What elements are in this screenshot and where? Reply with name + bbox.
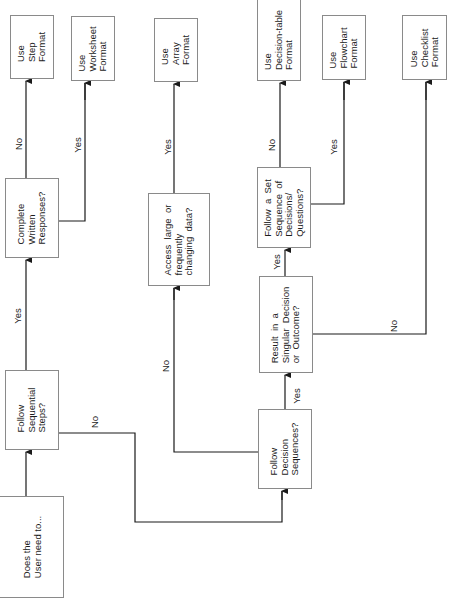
node-label: Does the User need to... (21, 516, 42, 578)
node-does-the-user-need-to: Does the User need to... (0, 496, 64, 598)
node-use-worksheet-format: Use Worksheet Format (71, 16, 115, 81)
node-label: Use Checklist Format (409, 28, 441, 67)
node-follow-sequential-steps: Follow Sequential Steps? (5, 370, 59, 450)
node-label: Complete Written Responses? (16, 192, 48, 245)
node-label: Use Worksheet Format (77, 26, 109, 71)
node-label: Follow Decision Sequences? (269, 423, 301, 476)
node-use-checklist-format: Use Checklist Format (402, 15, 447, 80)
node-label: Access large or frequently changing data… (163, 204, 195, 275)
edge-label-written-no: No (13, 138, 24, 150)
edge-label-decision-seq-no: No (160, 360, 171, 372)
node-label: Use Flowchart Format (328, 27, 360, 68)
node-label: Follow Sequential Steps? (16, 388, 48, 433)
node-use-array-format: Use Array Format (154, 18, 198, 82)
edge-label-set-sequence-no: No (266, 139, 277, 151)
edge-label-access-yes: Yes (162, 139, 173, 155)
node-label: Use Step Format (16, 32, 48, 62)
node-result-in-singular-decision: Result in a Singular Decision or Outcome… (259, 276, 313, 373)
node-label: Result in a Singular Decision or Outcome… (270, 286, 302, 363)
node-complete-written-responses: Complete Written Responses? (5, 178, 59, 258)
node-follow-decision-sequences: Follow Decision Sequences? (258, 409, 312, 489)
edge-label-singular-yes: Yes (271, 254, 282, 270)
edge-label-written-yes: Yes (72, 137, 83, 153)
node-label: Follow a Set Sequence of Decisions/ Ques… (263, 179, 305, 237)
node-label: Use Array Format (160, 35, 192, 65)
edge-label-set-sequence-yes: Yes (328, 139, 339, 155)
edge-label-sequential-no: No (89, 416, 100, 428)
node-access-large-data: Access large or frequently changing data… (148, 193, 210, 286)
node-label: Use Decision-table Format (263, 10, 295, 70)
node-use-decision-table-format: Use Decision-table Format (257, 0, 301, 81)
node-use-flowchart-format: Use Flowchart Format (322, 15, 366, 80)
edge-label-singular-no: No (388, 320, 399, 332)
edge-label-sequential-yes: Yes (12, 308, 23, 324)
node-follow-set-sequence: Follow a Set Sequence of Decisions/ Ques… (257, 167, 311, 248)
node-use-step-format: Use Step Format (10, 15, 54, 79)
edge-label-decision-seq-yes: Yes (291, 388, 302, 404)
